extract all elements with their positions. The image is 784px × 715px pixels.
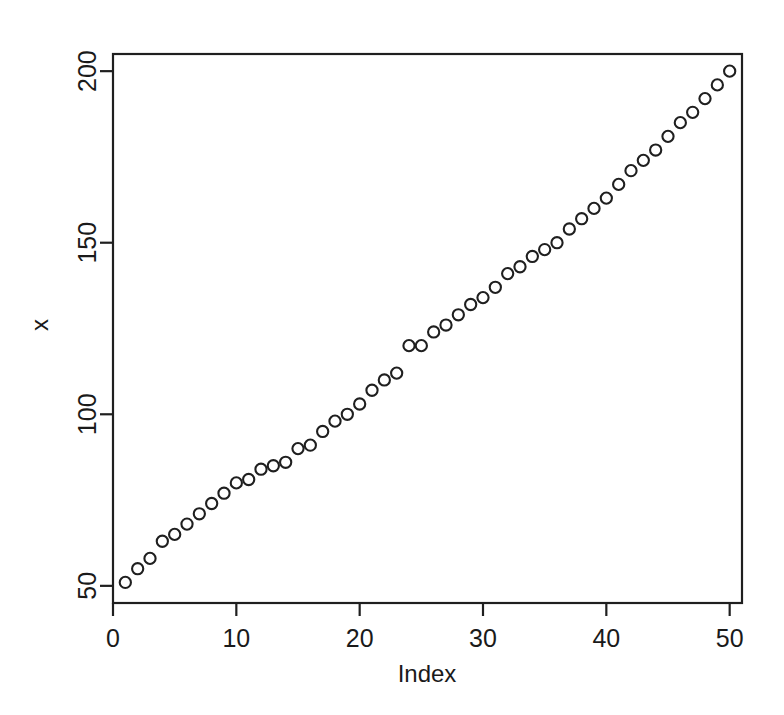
data-point: [625, 165, 636, 176]
data-point: [465, 299, 476, 310]
data-point: [453, 309, 464, 320]
data-point: [514, 261, 525, 272]
y-tick-label: 100: [73, 393, 101, 435]
data-point: [255, 464, 266, 475]
data-point: [317, 426, 328, 437]
data-point: [354, 398, 365, 409]
x-axis-title: Index: [398, 660, 457, 687]
data-point: [206, 498, 217, 509]
data-point: [477, 292, 488, 303]
data-point: [539, 244, 550, 255]
x-tick-label: 40: [592, 624, 620, 652]
x-tick-label: 0: [106, 624, 120, 652]
data-point: [601, 193, 612, 204]
data-point: [638, 155, 649, 166]
data-point: [157, 536, 168, 547]
data-point: [440, 319, 451, 330]
data-point: [243, 474, 254, 485]
y-axis-ticks: 50100150200: [73, 50, 113, 599]
data-point: [231, 477, 242, 488]
data-point-layer: [120, 66, 736, 588]
data-point: [724, 66, 735, 77]
data-point: [551, 237, 562, 248]
data-point: [650, 144, 661, 155]
x-tick-label: 10: [222, 624, 250, 652]
data-point: [576, 213, 587, 224]
y-tick-label: 150: [73, 222, 101, 264]
data-point: [662, 131, 673, 142]
data-point: [712, 79, 723, 90]
scatter-plot-figure: 50100150200 01020304050 x Index: [0, 0, 784, 715]
y-axis-title: x: [26, 319, 53, 331]
data-point: [379, 374, 390, 385]
data-point: [169, 529, 180, 540]
data-point: [416, 340, 427, 351]
data-point: [132, 563, 143, 574]
x-tick-label: 50: [716, 624, 744, 652]
data-point: [194, 508, 205, 519]
data-point: [120, 577, 131, 588]
data-point: [687, 107, 698, 118]
chart-canvas: 50100150200 01020304050 x Index: [0, 0, 784, 715]
data-point: [280, 457, 291, 468]
data-point: [181, 518, 192, 529]
data-point: [218, 488, 229, 499]
data-point: [268, 460, 279, 471]
data-point: [490, 282, 501, 293]
data-point: [403, 340, 414, 351]
x-axis-ticks: 01020304050: [106, 603, 744, 652]
data-point: [305, 440, 316, 451]
data-point: [527, 251, 538, 262]
x-tick-label: 30: [469, 624, 497, 652]
data-point: [675, 117, 686, 128]
data-point: [342, 409, 353, 420]
data-point: [613, 179, 624, 190]
y-tick-label: 50: [73, 572, 101, 600]
plot-frame: [113, 54, 742, 603]
data-point: [699, 93, 710, 104]
data-point: [292, 443, 303, 454]
data-point: [428, 326, 439, 337]
x-tick-label: 20: [346, 624, 374, 652]
data-point: [329, 416, 340, 427]
data-point: [502, 268, 513, 279]
data-point: [391, 368, 402, 379]
data-point: [564, 223, 575, 234]
data-point: [366, 385, 377, 396]
data-point: [144, 553, 155, 564]
y-tick-label: 200: [73, 50, 101, 92]
data-point: [588, 203, 599, 214]
